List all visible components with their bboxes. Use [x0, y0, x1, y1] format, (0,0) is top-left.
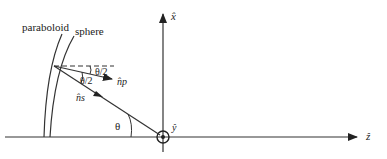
ns-label: n̂s [76, 92, 85, 103]
paraboloid-label: paraboloid [22, 21, 70, 33]
y-axis-label: ŷ [171, 122, 177, 133]
half-angle-top-label: θ/2 [95, 66, 108, 77]
theta-label: θ [115, 120, 120, 132]
paraboloid-curve [44, 34, 62, 137]
z-axis-label: ẑ [365, 130, 371, 142]
half-angle-bottom-label: θ/2 [80, 75, 93, 86]
geometry-diagram: ẑ x̂ ŷ paraboloid sphere n̂p n̂s θ/2 θ/2… [0, 0, 387, 159]
np-label: n̂p [117, 76, 127, 87]
x-axis-label: x̂ [170, 10, 176, 22]
sphere-curve [50, 36, 74, 137]
half-angle-arc-top [90, 66, 91, 74]
theta-arc [128, 114, 132, 137]
sphere-label: sphere [75, 25, 104, 37]
y-axis-dot [161, 135, 165, 139]
